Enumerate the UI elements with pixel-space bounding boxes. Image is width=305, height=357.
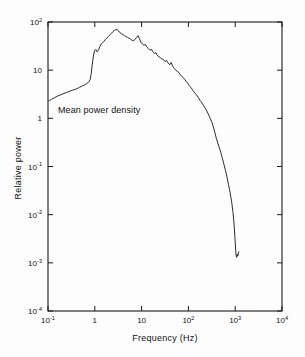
y-tick-label: 10 xyxy=(33,66,42,75)
mean-power-density-annotation: Mean power density xyxy=(58,105,141,115)
power-spectrum-chart: 10-1110102103104 10-410-310-210-1110102 … xyxy=(0,0,305,357)
figure-background xyxy=(0,0,305,357)
y-axis-title: Relative power xyxy=(13,136,23,199)
x-axis-title: Frequency (Hz) xyxy=(132,333,198,343)
figure-panel: 10-1110102103104 10-410-310-210-1110102 … xyxy=(0,0,305,357)
x-tick-label: 1 xyxy=(93,316,98,325)
x-tick-label: 10 xyxy=(137,316,146,325)
y-tick-label: 1 xyxy=(38,114,43,123)
